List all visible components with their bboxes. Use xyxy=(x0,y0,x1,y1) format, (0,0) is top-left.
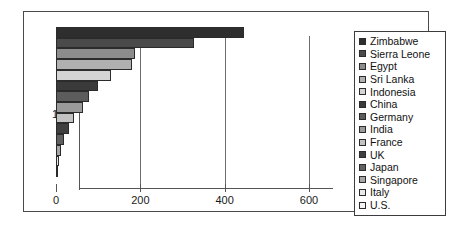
legend-item: Sierra Leone xyxy=(359,48,445,61)
legend-label: Zimbabwe xyxy=(370,35,418,47)
value-axis-tick xyxy=(225,184,226,192)
value-axis-tick xyxy=(56,184,57,192)
legend-swatch-icon xyxy=(359,38,366,45)
bar xyxy=(56,59,132,70)
legend-swatch-icon xyxy=(359,176,366,183)
legend-label: Indonesia xyxy=(370,86,416,98)
gridline xyxy=(140,36,141,188)
legend-swatch-icon xyxy=(359,50,366,57)
legend-swatch-icon xyxy=(359,88,366,95)
value-axis-tick-label: 400 xyxy=(205,194,245,206)
legend-swatch-icon xyxy=(359,113,366,120)
legend-label: China xyxy=(370,98,397,110)
bar xyxy=(56,38,194,49)
legend-label: Sri Lanka xyxy=(370,73,414,85)
legend-label: Japan xyxy=(370,161,399,173)
legend-swatch-icon xyxy=(359,139,366,146)
legend-label: Singapore xyxy=(370,174,418,186)
value-axis-tick-label: 200 xyxy=(120,194,160,206)
legend-item: Sri Lanka xyxy=(359,73,445,86)
legend-item: India xyxy=(359,123,445,136)
legend-item: Italy xyxy=(359,186,445,199)
legend-item: Egypt xyxy=(359,60,445,73)
legend-item: UK xyxy=(359,148,445,161)
legend-swatch-icon xyxy=(359,76,366,83)
legend-label: France xyxy=(370,136,403,148)
bar xyxy=(56,156,59,167)
bar xyxy=(56,70,111,81)
legend-swatch-icon xyxy=(359,164,366,171)
gridline xyxy=(309,36,310,188)
chart-legend: ZimbabweSierra LeoneEgyptSri LankaIndone… xyxy=(354,31,446,216)
legend-swatch-icon xyxy=(359,126,366,133)
legend-swatch-icon xyxy=(359,189,366,196)
bar xyxy=(56,48,135,59)
bar xyxy=(56,145,61,156)
legend-item: Indonesia xyxy=(359,85,445,98)
legend-label: Italy xyxy=(370,186,389,198)
legend-label: Egypt xyxy=(370,60,397,72)
legend-label: India xyxy=(370,123,393,135)
bar xyxy=(56,134,64,145)
legend-item: France xyxy=(359,136,445,149)
value-axis-tick xyxy=(309,184,310,192)
bar xyxy=(56,102,83,113)
value-axis-tick xyxy=(140,184,141,192)
legend-item: Singapore xyxy=(359,174,445,187)
chart-screenshot: 1 0200400600 ZimbabweSierra LeoneEgyptSr… xyxy=(0,0,450,232)
bar xyxy=(56,113,74,124)
chart-frame: 1 0200400600 ZimbabweSierra LeoneEgyptSr… xyxy=(23,11,429,212)
legend-item: U.S. xyxy=(359,199,445,212)
legend-swatch-icon xyxy=(359,151,366,158)
value-axis-tick-label: 0 xyxy=(36,194,76,206)
legend-swatch-icon xyxy=(359,202,366,209)
legend-label: U.S. xyxy=(370,199,390,211)
legend-label: Sierra Leone xyxy=(370,48,430,60)
bar xyxy=(56,166,58,177)
legend-label: UK xyxy=(370,149,385,161)
legend-swatch-icon xyxy=(359,63,366,70)
legend-item: Japan xyxy=(359,161,445,174)
gridline xyxy=(225,36,226,188)
bar xyxy=(56,91,89,102)
bar xyxy=(56,81,98,92)
legend-item: Germany xyxy=(359,111,445,124)
value-axis-tick-label: 600 xyxy=(289,194,329,206)
value-axis-line xyxy=(79,188,333,189)
bar xyxy=(56,123,69,134)
legend-label: Germany xyxy=(370,111,413,123)
legend-item: Zimbabwe xyxy=(359,35,445,48)
legend-swatch-icon xyxy=(359,101,366,108)
bar xyxy=(56,27,244,38)
legend-item: China xyxy=(359,98,445,111)
